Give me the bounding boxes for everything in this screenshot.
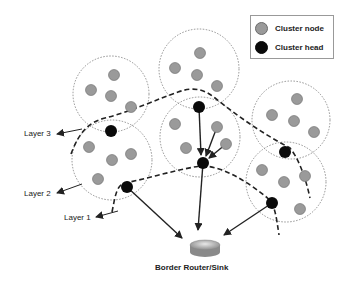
layer-2-label: Layer 2 — [24, 189, 51, 198]
layer-2-boundary — [112, 166, 279, 235]
sink-label: Border Router/Sink — [155, 263, 228, 272]
cluster-node — [93, 174, 104, 185]
cluster-node — [170, 119, 181, 130]
cluster-node — [84, 142, 95, 153]
cluster-node — [289, 116, 300, 127]
link-head-d1-to-head-d2 — [199, 107, 201, 155]
cluster-node — [212, 81, 223, 92]
cluster-head — [121, 181, 133, 193]
cluster-node — [192, 70, 203, 81]
cluster-head-icon — [255, 41, 268, 54]
cluster-node — [279, 177, 290, 188]
cluster-head — [266, 197, 278, 209]
cluster-head — [197, 157, 209, 169]
cluster-node — [106, 91, 117, 102]
layer-1-label: Layer 1 — [64, 213, 91, 222]
layer-3-boundary — [71, 89, 310, 198]
legend-label: Cluster node — [275, 24, 324, 33]
cluster-node-icon — [255, 22, 268, 35]
layer-3-label: Layer 3 — [24, 129, 51, 138]
cluster-node — [107, 155, 118, 166]
link-head-b-to-sink — [127, 187, 182, 238]
legend-item-cluster-head: Cluster head — [255, 41, 323, 54]
cluster-node — [86, 85, 97, 96]
cluster-node — [295, 204, 306, 215]
cluster-node — [126, 149, 137, 160]
cluster-node — [181, 143, 192, 154]
cluster-head — [193, 101, 205, 113]
cluster-node — [257, 165, 268, 176]
legend: Cluster node Cluster head — [250, 15, 334, 59]
cluster-node — [267, 110, 278, 121]
cluster-node — [126, 102, 137, 113]
layer-3-pointer — [57, 129, 82, 134]
cluster-node — [309, 127, 320, 138]
layer-2-pointer — [57, 184, 82, 193]
link-head-f-to-sink — [224, 203, 272, 235]
cluster-head — [105, 125, 117, 137]
cluster-node — [195, 48, 206, 59]
legend-item-cluster-node: Cluster node — [255, 22, 324, 35]
layer-1-pointer — [96, 211, 118, 217]
cluster-node — [109, 70, 120, 81]
link-head-d2-to-sink — [198, 163, 203, 230]
router-icon — [190, 240, 220, 257]
cluster-node — [300, 171, 311, 182]
cluster-node — [292, 94, 303, 105]
cluster-node — [221, 139, 232, 150]
legend-label: Cluster head — [275, 43, 323, 52]
cluster-node — [170, 63, 181, 74]
cluster-node — [212, 122, 223, 133]
cluster-head — [279, 146, 291, 158]
